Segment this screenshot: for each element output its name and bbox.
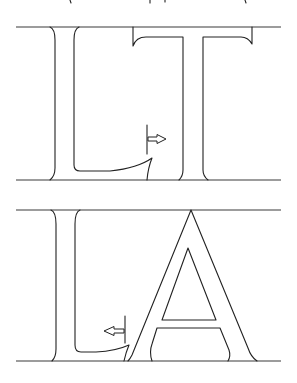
letter-spacing-figure	[0, 0, 297, 383]
letter-t-outline	[133, 27, 252, 180]
arrow-left-icon	[104, 316, 125, 343]
cropped-text-fragments	[70, 0, 246, 3]
panel-lt	[16, 27, 281, 180]
letter-l-outline	[50, 27, 152, 180]
panel-la	[16, 210, 281, 361]
letter-l-outline	[51, 210, 129, 361]
letter-a-outline	[128, 210, 257, 361]
arrow-right-icon	[147, 125, 166, 154]
